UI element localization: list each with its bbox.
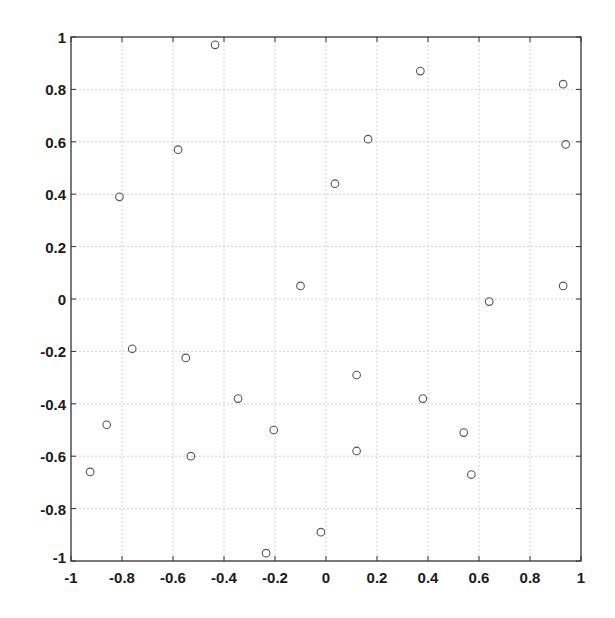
- y-tick-label: -1: [53, 549, 66, 566]
- x-tick-label: 0.2: [367, 569, 388, 586]
- y-tick-label: -0.8: [40, 501, 66, 518]
- y-tick-label: 0: [58, 291, 66, 308]
- x-tick-label: -1: [64, 569, 77, 586]
- x-tick-label: 0.4: [418, 569, 440, 586]
- y-tick-label: 1: [58, 29, 66, 46]
- y-tick-label: -0.2: [40, 343, 66, 360]
- x-tick-label: 0.8: [520, 569, 541, 586]
- y-tick-label: 0.2: [45, 239, 66, 256]
- x-tick-label: -0.8: [109, 569, 135, 586]
- y-tick-label: -0.6: [40, 448, 66, 465]
- x-tick-label: 1: [577, 569, 585, 586]
- scatter-chart: -1-0.8-0.6-0.4-0.200.20.40.60.81 -1-0.8-…: [0, 0, 615, 618]
- x-tick-label: 0: [322, 569, 330, 586]
- x-tick-label: -0.6: [160, 569, 186, 586]
- y-tick-label: 0.4: [45, 186, 67, 203]
- y-tick-label: 0.8: [45, 81, 66, 98]
- y-tick-label: -0.4: [40, 396, 67, 413]
- x-tick-label: -0.2: [262, 569, 288, 586]
- x-tick-label: -0.4: [211, 569, 238, 586]
- chart-background: [0, 0, 615, 618]
- y-tick-label: 0.6: [45, 134, 66, 151]
- x-tick-label: 0.6: [469, 569, 490, 586]
